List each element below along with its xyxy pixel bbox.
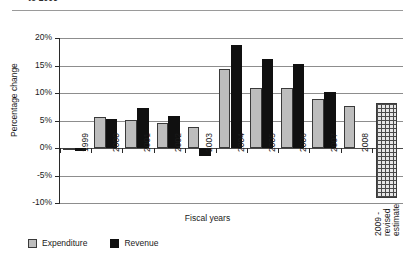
- x-tick-9: [341, 148, 342, 153]
- x-tick-6: [247, 148, 248, 153]
- y-axis-label-20: 20%: [12, 32, 52, 42]
- legend-label-revenue: Revenue: [124, 238, 158, 248]
- x-tick-5: [216, 148, 217, 153]
- y-axis-label-0: 0%: [12, 142, 52, 152]
- y-tick-15: [55, 66, 60, 67]
- projection-column-2009: [376, 103, 397, 198]
- x-tick-8: [309, 148, 310, 153]
- y-axis-label--10: -10%: [12, 197, 52, 207]
- x-tick-3: [154, 148, 155, 153]
- y-tick--10: [55, 203, 60, 204]
- heading-rule: [12, 10, 403, 11]
- x-axis-label-2005: 2005: [267, 133, 277, 152]
- bar-expenditure-2007: [312, 99, 324, 149]
- gridline--10: [60, 203, 403, 204]
- y-tick-10: [55, 93, 60, 94]
- x-tick-1: [91, 148, 92, 153]
- y-axis-label-10: 10%: [12, 87, 52, 97]
- x-axis-label-2006: 2006: [298, 133, 308, 152]
- bar-expenditure-2006: [281, 88, 293, 149]
- x-tick-4: [185, 148, 186, 153]
- y-tick--5: [55, 176, 60, 177]
- y-tick-5: [55, 121, 60, 122]
- bar-expenditure-2000: [94, 117, 106, 148]
- figure-heading: to 2009: [28, 0, 58, 3]
- gridline--5: [60, 176, 403, 177]
- gridline-20: [60, 38, 403, 39]
- bar-expenditure-1999: [63, 148, 75, 150]
- y-tick-20: [55, 38, 60, 39]
- bar-expenditure-2004: [219, 69, 231, 148]
- x-axis-label-1999: 1999: [80, 133, 90, 152]
- x-axis-label-2002: 2002: [173, 133, 183, 152]
- legend-item-revenue: Revenue: [110, 238, 158, 248]
- legend-swatch-revenue: [110, 239, 119, 248]
- plot-area: [60, 38, 403, 203]
- x-tick-10: [372, 148, 373, 153]
- y-tick-0: [55, 148, 60, 149]
- x-axis-label-2003: 2003: [204, 133, 214, 152]
- x-axis-title: Fiscal years: [0, 213, 415, 223]
- y-axis-label--5: -5%: [12, 170, 52, 180]
- x-tick-2: [122, 148, 123, 153]
- y-axis-label-15: 15%: [12, 60, 52, 70]
- x-axis-label-2000: 2000: [111, 133, 121, 152]
- legend-item-expenditure: Expenditure: [28, 238, 87, 248]
- x-tick-7: [278, 148, 279, 153]
- bar-expenditure-2005: [250, 88, 262, 149]
- legend-label-expenditure: Expenditure: [42, 238, 87, 248]
- bar-expenditure-2001: [125, 120, 137, 148]
- bar-expenditure-2002: [157, 123, 169, 148]
- x-axis-label-2009-revised-estimate: 2009 -revisedestimate: [374, 204, 401, 236]
- bar-expenditure-2008: [344, 106, 356, 148]
- bar-expenditure-2003: [188, 127, 200, 148]
- x-axis-label-2001: 2001: [142, 133, 152, 152]
- x-axis-label-2008: 2008: [360, 133, 370, 152]
- x-axis-label-2004: 2004: [236, 133, 246, 152]
- x-tick-0: [60, 148, 61, 153]
- chart-container: to 2009 Percentage change Fiscal years E…: [0, 0, 415, 258]
- chart-legend: Expenditure Revenue: [28, 238, 158, 248]
- y-axis-label-5: 5%: [12, 115, 52, 125]
- legend-swatch-expenditure: [28, 239, 37, 248]
- x-axis-label-2007: 2007: [329, 133, 339, 152]
